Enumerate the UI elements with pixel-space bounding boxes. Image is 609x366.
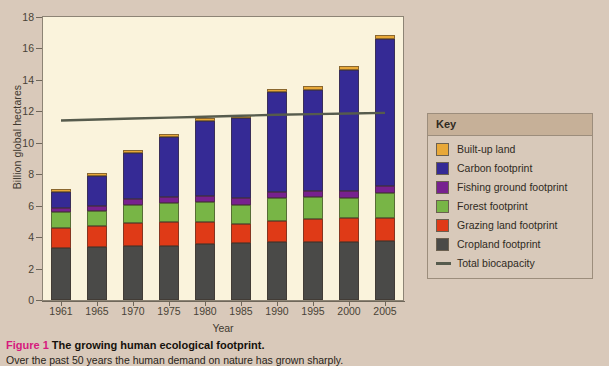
legend-item[interactable]: Fishing ground footprint — [436, 180, 584, 194]
figure-caption: Figure 1 The growing human ecological fo… — [6, 339, 265, 351]
legend-item-label: Cropland footprint — [457, 239, 540, 250]
legend-item-label: Grazing land footprint — [457, 220, 557, 231]
x-axis-title: Year — [42, 322, 404, 334]
legend-color-swatch — [436, 219, 449, 232]
legend-item[interactable]: Carbon footprint — [436, 161, 584, 175]
legend-item-label: Forest footprint — [457, 201, 528, 212]
legend-color-swatch — [436, 181, 449, 194]
plot-area — [42, 16, 404, 301]
legend-item[interactable]: Forest footprint — [436, 199, 584, 213]
legend-color-swatch — [436, 200, 449, 213]
biocapacity-polyline — [61, 113, 385, 121]
legend-item[interactable]: Built-up land — [436, 142, 584, 156]
y-axis-tick-label: 16 — [8, 43, 34, 54]
legend-line-swatch — [436, 262, 451, 265]
x-axis-tick-label: 1995 — [293, 306, 333, 317]
legend-item-label: Built-up land — [457, 144, 515, 155]
legend-item[interactable]: Cropland footprint — [436, 237, 584, 251]
legend-title: Key — [428, 114, 592, 136]
x-axis-tick-label: 1980 — [185, 306, 225, 317]
plot-inner — [43, 17, 403, 300]
y-axis-tick-label: 2 — [8, 264, 34, 275]
legend-key: Key Built-up landCarbon footprintFishing… — [427, 113, 593, 279]
y-axis-tick-label: 0 — [8, 295, 34, 306]
x-axis-tick-label: 1965 — [77, 306, 117, 317]
legend-item-label: Fishing ground footprint — [457, 182, 567, 193]
total-biocapacity-line — [43, 17, 403, 300]
x-axis-tick-label: 2000 — [329, 306, 369, 317]
legend-color-swatch — [436, 238, 449, 251]
legend-color-swatch — [436, 162, 449, 175]
legend-item[interactable]: Grazing land footprint — [436, 218, 584, 232]
x-axis-tick-label: 1961 — [41, 306, 81, 317]
legend-items: Built-up landCarbon footprintFishing gro… — [428, 136, 592, 278]
x-axis-tick-label: 1990 — [257, 306, 297, 317]
figure-title: The growing human ecological footprint. — [52, 339, 265, 351]
figure-subtitle: Over the past 50 years the human demand … — [6, 354, 343, 366]
x-axis-tick-label: 1975 — [149, 306, 189, 317]
x-axis-tick-label: 1985 — [221, 306, 261, 317]
y-axis-tick-label: 18 — [8, 12, 34, 23]
y-axis-tick-label: 4 — [8, 232, 34, 243]
legend-item-label: Carbon footprint — [457, 163, 532, 174]
figure-number: Figure 1 — [6, 339, 49, 351]
x-axis-tick-label: 1970 — [113, 306, 153, 317]
legend-item-label: Total biocapacity — [457, 258, 535, 269]
legend-item[interactable]: Total biocapacity — [436, 256, 584, 270]
y-axis-title: Billion global hectares — [11, 57, 23, 217]
x-axis-tick-label: 2005 — [365, 306, 405, 317]
legend-color-swatch — [436, 143, 449, 156]
